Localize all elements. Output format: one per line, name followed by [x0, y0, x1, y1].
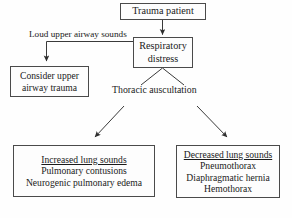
connector-respiratory-to-consider — [47, 42, 134, 62]
label-thoracic-auscultation: Thoracic auscultation — [112, 85, 197, 96]
node-consider-line-1: Consider upper — [20, 70, 79, 81]
node-increased-lung-sounds-item-1: Pulmonary contusions — [41, 165, 127, 176]
node-decreased-lung-sounds-item-3: Hemothorax — [204, 183, 252, 194]
node-decreased-lung-sounds: Decreased lung sounds Pneumothorax Diaph… — [176, 145, 280, 198]
node-respiratory-distress: Respiratory distress — [133, 37, 193, 68]
node-respiratory-distress-line-1: Respiratory — [139, 40, 187, 52]
edge-label-loud-upper-airway-sounds: Loud upper airway sounds — [29, 29, 127, 39]
node-increased-lung-sounds-item-2: Neurogenic pulmonary edema — [26, 177, 142, 188]
node-increased-lung-sounds: Increased lung sounds Pulmonary contusio… — [13, 145, 155, 197]
node-trauma-patient-line-1: Trauma patient — [132, 5, 194, 17]
node-decreased-lung-sounds-item-2: Diaphragmatic hernia — [186, 172, 269, 183]
node-decreased-lung-sounds-heading: Decreased lung sounds — [184, 149, 272, 160]
connector-respiratory-fork — [141, 68, 184, 85]
node-respiratory-distress-line-2: distress — [148, 53, 179, 65]
flowchart-canvas: Trauma patient Respiratory distress Cons… — [0, 0, 292, 218]
node-increased-lung-sounds-heading: Increased lung sounds — [41, 154, 126, 165]
connector-auscultation-to-increased — [95, 106, 124, 137]
node-decreased-lung-sounds-item-1: Pneumothorax — [200, 160, 256, 171]
node-consider-line-2: airway trauma — [22, 82, 77, 93]
node-consider-upper-airway-trauma: Consider upper airway trauma — [10, 66, 89, 97]
connector-auscultation-to-decreased — [197, 106, 227, 137]
node-trauma-patient: Trauma patient — [120, 3, 206, 20]
